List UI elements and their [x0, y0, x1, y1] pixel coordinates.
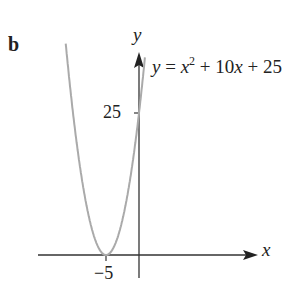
- y-tick-label-25: 25: [103, 102, 121, 123]
- x-tick-label-minus5: −5: [94, 263, 113, 284]
- panel-label: b: [8, 33, 19, 56]
- eq-end: + 25: [243, 56, 282, 77]
- y-axis-label: y: [133, 24, 141, 46]
- parabola-curve: [66, 44, 145, 255]
- eq-equals: =: [160, 56, 180, 77]
- x-axis-label: x: [262, 239, 270, 261]
- equation-label: y = x2 + 10x + 25: [152, 56, 282, 78]
- eq-x2: x: [234, 56, 242, 77]
- eq-x: x: [181, 56, 189, 77]
- eq-mid: + 10: [195, 56, 234, 77]
